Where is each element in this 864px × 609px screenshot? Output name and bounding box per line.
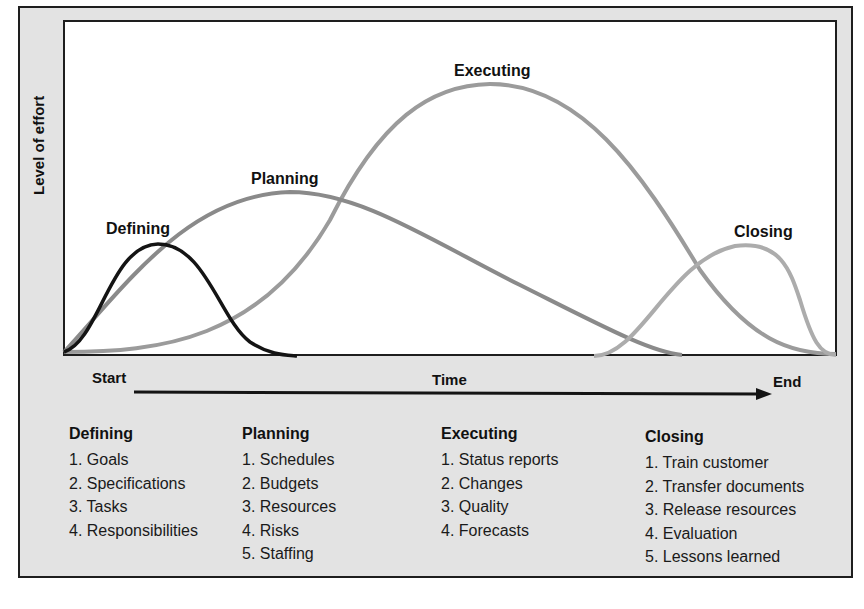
phase-item: 2. Budgets: [242, 472, 336, 496]
phase-item: 4. Evaluation: [645, 522, 804, 546]
phase-item: 5. Lessons learned: [645, 545, 804, 569]
phase-item: 1. Train customer: [645, 451, 804, 475]
x-axis-time-label: Time: [432, 371, 467, 388]
phase-item: 3. Tasks: [69, 495, 198, 519]
curve-label-planning: Planning: [251, 170, 319, 188]
phase-title: Defining: [69, 425, 198, 443]
phase-column-executing: Executing 1. Status reports 2. Changes 3…: [441, 425, 558, 542]
phase-column-closing: Closing 1. Train customer 2. Transfer do…: [645, 428, 804, 569]
phase-item: 4. Responsibilities: [69, 519, 198, 543]
phase-item: 3. Release resources: [645, 498, 804, 522]
curve-label-closing: Closing: [734, 223, 793, 241]
phase-item: 2. Transfer documents: [645, 475, 804, 499]
y-axis-label: Level of effort: [30, 96, 47, 195]
phase-item: 3. Resources: [242, 495, 336, 519]
phase-item: 4. Forecasts: [441, 519, 558, 543]
phase-column-defining: Defining 1. Goals 2. Specifications 3. T…: [69, 425, 198, 542]
phase-title: Executing: [441, 425, 558, 443]
phase-title: Closing: [645, 428, 804, 446]
phase-item: 5. Staffing: [242, 542, 336, 566]
x-axis-start-label: Start: [92, 369, 126, 386]
arrow-head-icon: [756, 388, 772, 400]
curve-label-executing: Executing: [454, 62, 530, 80]
phase-column-planning: Planning 1. Schedules 2. Budgets 3. Reso…: [242, 425, 336, 566]
x-axis-end-label: End: [773, 373, 801, 390]
phase-title: Planning: [242, 425, 336, 443]
phase-item: 2. Changes: [441, 472, 558, 496]
phase-item: 1. Goals: [69, 448, 198, 472]
phase-item: 2. Specifications: [69, 472, 198, 496]
curve-label-defining: Defining: [106, 220, 170, 238]
phase-item: 1. Status reports: [441, 448, 558, 472]
phase-item: 3. Quality: [441, 495, 558, 519]
phase-item: 1. Schedules: [242, 448, 336, 472]
time-arrow-line: [134, 392, 760, 394]
phase-item: 4. Risks: [242, 519, 336, 543]
plot-area: [64, 21, 836, 355]
